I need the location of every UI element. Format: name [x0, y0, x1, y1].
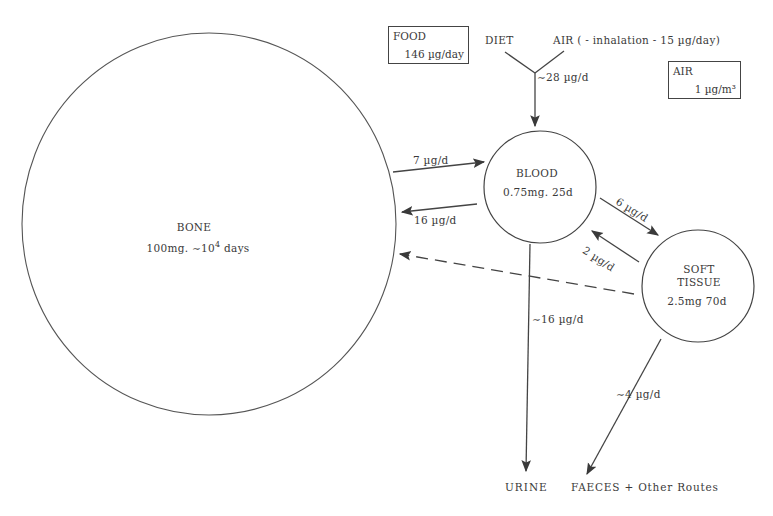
diet-branch-line: [505, 52, 535, 73]
air-box-value: 1 µg/m³: [695, 83, 736, 95]
bone-to-blood-flow-label: 16 µg/d: [414, 214, 457, 226]
air-box-title: AIR: [673, 65, 693, 77]
air-branch-line: [535, 51, 564, 73]
diet-label: DIET: [485, 34, 513, 46]
urine-label: URINE: [505, 481, 548, 493]
urine-flow-label: ∼16 µg/d: [532, 313, 584, 325]
air-concentration-box: AIR 1 µg/m³: [668, 61, 741, 99]
food-box-value: 146 µg/day: [405, 48, 464, 60]
food-box: FOOD 146 µg/day: [388, 26, 469, 64]
diagram-canvas: [0, 0, 773, 516]
air-inhalation-label: AIR ( - inhalation - 15 µg/day): [553, 34, 720, 46]
soft-tissue-name-line2: TISSUE: [677, 276, 721, 288]
blood-to-bone-flow-label: 7 µg/d: [413, 154, 449, 166]
food-box-title: FOOD: [393, 30, 426, 42]
soft-tissue-to-faeces-arrow: [587, 339, 661, 474]
soft-tissue-detail: 2.5mg 70d: [667, 295, 727, 307]
bone-to-blood-arrow: [402, 204, 477, 212]
faeces-label: FAECES + Other Routes: [571, 481, 719, 493]
faeces-flow-label: ∼4 µg/d: [616, 388, 661, 400]
bone-detail: 100mg. ∼104 days: [146, 240, 249, 254]
bone-name: BONE: [177, 221, 212, 233]
soft-tissue-name-line1: SOFT: [683, 263, 714, 275]
intake-flow-label: ∼28 µg/d: [537, 71, 589, 83]
blood-detail: 0.75mg. 25d: [503, 186, 573, 198]
blood-name: BLOOD: [516, 167, 558, 179]
blood-to-urine-arrow: [526, 244, 530, 471]
